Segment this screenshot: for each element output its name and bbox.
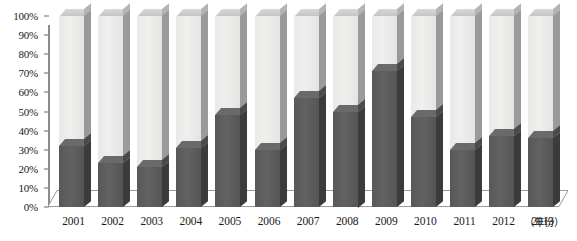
x-axis-tick-label: 2013 [531, 216, 554, 228]
y-axis-tick-label: 50% [18, 106, 38, 117]
stacked-bar-chart: 0%10%20%30%40%50%60%70%80%90%100% （年份） 2… [0, 0, 577, 241]
bar-segment-dark-side [553, 132, 560, 207]
x-axis: （年份） 20012002200320042005200620072008200… [0, 216, 577, 241]
bar-segment-dark-side [162, 161, 169, 207]
x-axis-tick-label: 2011 [453, 216, 475, 228]
y-axis-tick-label: 60% [18, 87, 38, 98]
bar-segment-dark-front [137, 167, 162, 207]
bar-stack [98, 16, 123, 207]
bar-segment-dark-front [294, 98, 319, 207]
bar-segment-dark-side [319, 92, 326, 207]
bar-segment-light-front [528, 16, 553, 138]
x-axis-tick-label: 2009 [375, 216, 398, 228]
bar-segment-dark-front [98, 163, 123, 207]
x-axis-tick-label: 2006 [258, 216, 281, 228]
plot-area [48, 16, 568, 207]
x-axis-tick-label: 2001 [62, 216, 85, 228]
bar-segment-light-front [450, 16, 475, 150]
bar-column [450, 16, 475, 207]
bar-segment-dark-side [201, 142, 208, 207]
bar-stack [372, 16, 397, 207]
bar-segment-dark-front [176, 148, 201, 207]
bar-stack [137, 16, 162, 207]
bar-segment-dark-front [333, 112, 358, 208]
bar-stack [215, 16, 240, 207]
bar-segment-light-front [98, 16, 123, 163]
bar-column [333, 16, 358, 207]
x-axis-tick-label: 2003 [140, 216, 163, 228]
bar-column [255, 16, 280, 207]
bar-column [98, 16, 123, 207]
y-axis-tick-label: 40% [18, 125, 38, 136]
bar-stack [528, 16, 553, 207]
bar-column [137, 16, 162, 207]
bar-segment-dark-side [514, 130, 521, 207]
bar-column [59, 16, 84, 207]
bar-segment-light-front [294, 16, 319, 98]
bar-segment-light-front [411, 16, 436, 117]
x-axis-tick-label: 2005 [219, 216, 242, 228]
bar-segment-light-side [514, 10, 521, 136]
y-axis-tick-label: 10% [18, 182, 38, 193]
bar-segment-light-front [137, 16, 162, 167]
bar-segment-light-side [162, 10, 169, 167]
bar-column [528, 16, 553, 207]
bar-segment-light-front [215, 16, 240, 115]
y-axis-tick-label: 0% [24, 202, 38, 213]
bar-stack [59, 16, 84, 207]
bar-segment-dark-front [450, 150, 475, 207]
bar-segment-light-side [123, 10, 130, 163]
bar-stack [333, 16, 358, 207]
bar-segment-dark-front [255, 150, 280, 207]
bar-segment-light-side [436, 10, 443, 117]
bar-segment-light-side [358, 10, 365, 111]
x-axis-tick-label: 2002 [101, 216, 124, 228]
y-axis-tick-label: 30% [18, 144, 38, 155]
bar-column [489, 16, 514, 207]
bar-stack [176, 16, 201, 207]
bar-segment-light-front [59, 16, 84, 146]
bar-segment-light-side [84, 10, 91, 146]
bar-segment-light-front [255, 16, 280, 150]
bar-segment-light-front [333, 16, 358, 112]
bar-segment-dark-side [280, 144, 287, 207]
bar-segment-dark-front [411, 117, 436, 207]
x-axis-tick-label: 2007 [297, 216, 320, 228]
bar-segment-dark-side [123, 157, 130, 207]
bar-column [372, 16, 397, 207]
y-axis: 0%10%20%30%40%50%60%70%80%90%100% [0, 0, 46, 241]
bar-segment-light-side [240, 10, 247, 115]
bar-column [176, 16, 201, 207]
bar-segment-light-side [475, 10, 482, 150]
bar-stack [450, 16, 475, 207]
y-axis-tick-label: 80% [18, 49, 38, 60]
x-axis-tick-label: 2004 [179, 216, 202, 228]
bar-segment-dark-front [528, 138, 553, 207]
bar-segment-light-front [489, 16, 514, 136]
bar-segment-light-side [280, 10, 287, 150]
bar-segment-dark-side [358, 106, 365, 207]
bar-segment-dark-front [489, 136, 514, 207]
bar-segment-dark-front [59, 146, 84, 207]
bar-stack [294, 16, 319, 207]
bar-segment-dark-front [372, 71, 397, 207]
bar-stack [411, 16, 436, 207]
bar-segment-light-side [553, 10, 560, 138]
y-axis-tick-label: 70% [18, 68, 38, 79]
y-axis-tick-label: 90% [18, 30, 38, 41]
bar-segment-dark-side [84, 140, 91, 207]
y-axis-tick-label: 100% [13, 11, 38, 22]
bar-segment-dark-side [240, 109, 247, 207]
bar-segment-light-side [201, 10, 208, 148]
bar-stack [489, 16, 514, 207]
y-axis-tick-label: 20% [18, 163, 38, 174]
bar-column [215, 16, 240, 207]
bar-segment-dark-side [436, 111, 443, 207]
bar-column [411, 16, 436, 207]
bar-stack [255, 16, 280, 207]
bar-segment-dark-front [215, 115, 240, 207]
bar-segment-dark-side [397, 66, 404, 207]
bar-segment-dark-side [475, 144, 482, 207]
bar-segment-light-front [176, 16, 201, 148]
bar-column [294, 16, 319, 207]
